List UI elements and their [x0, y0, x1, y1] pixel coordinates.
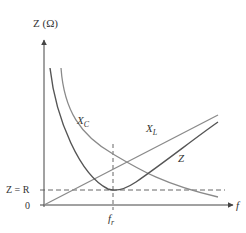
- zero-tick-label: 0: [25, 200, 30, 211]
- z-curve-label: Z: [178, 152, 185, 164]
- y-axis-label: Z (Ω): [33, 17, 58, 30]
- xc-label: XC: [76, 114, 90, 129]
- resonance-frequency-label: fr: [108, 212, 115, 227]
- z-equals-r-label: Z = R: [6, 184, 30, 195]
- impedance-vs-frequency-chart: Z (Ω) f 0 Z = R fr XC XL Z: [0, 0, 246, 233]
- xl-curve: [44, 115, 218, 205]
- xl-label: XL: [145, 122, 158, 137]
- z-curve: [50, 68, 218, 190]
- xc-curve: [61, 68, 218, 197]
- x-axis-label: f: [236, 199, 241, 211]
